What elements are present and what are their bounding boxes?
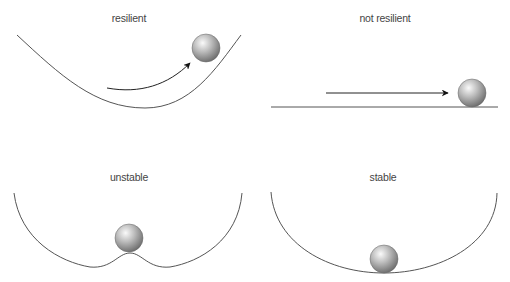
diagram-svg <box>0 0 510 282</box>
panel-unstable <box>14 193 242 267</box>
ball-icon <box>458 79 486 107</box>
label-stable: stable <box>370 171 397 183</box>
ball-icon <box>370 245 398 273</box>
panel-not-resilient <box>271 79 498 107</box>
panel-stable <box>271 192 497 273</box>
label-resilient: resilient <box>112 12 146 24</box>
label-unstable: unstable <box>110 171 148 183</box>
curved-arrow-icon <box>107 63 190 90</box>
panel-resilient <box>17 34 241 108</box>
diagram-canvas: resilient not resilient unstable stable <box>0 0 510 282</box>
ball-icon <box>192 34 220 62</box>
label-not-resilient: not resilient <box>359 12 410 24</box>
ball-icon <box>115 224 143 252</box>
